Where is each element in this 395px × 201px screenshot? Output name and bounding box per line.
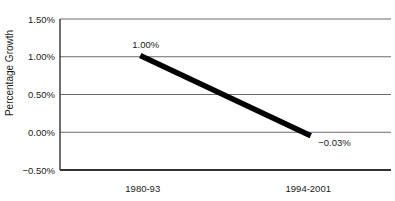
chart-canvas: 1.50%1.00%0.50%0.00%−0.50%1.00%−0.03%198… bbox=[0, 0, 395, 201]
y-tick-label: 1.00% bbox=[28, 51, 55, 62]
y-axis-title: Percentage Growth bbox=[4, 30, 15, 116]
y-tick-label: 0.50% bbox=[28, 89, 55, 100]
data-label: 1.00% bbox=[132, 39, 159, 50]
x-category-label: 1980-93 bbox=[125, 183, 160, 194]
y-tick-label: −0.50% bbox=[23, 165, 56, 176]
series-line bbox=[143, 57, 309, 135]
percentage-growth-line-chart: 1.50%1.00%0.50%0.00%−0.50%1.00%−0.03%198… bbox=[0, 0, 395, 201]
data-label: −0.03% bbox=[318, 137, 351, 148]
y-tick-label: 0.00% bbox=[28, 127, 55, 138]
y-tick-label: 1.50% bbox=[28, 14, 55, 25]
x-category-label: 1994-2001 bbox=[286, 183, 331, 194]
